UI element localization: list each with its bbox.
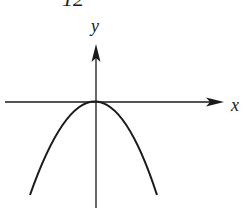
parabola-curve (30, 102, 157, 196)
y-axis-label: y (89, 16, 99, 36)
figure-number: 12 (62, 0, 84, 11)
diagram-svg: 12 y x (0, 0, 243, 208)
parabola-diagram: 12 y x (0, 0, 243, 208)
x-axis-label: x (230, 95, 239, 115)
